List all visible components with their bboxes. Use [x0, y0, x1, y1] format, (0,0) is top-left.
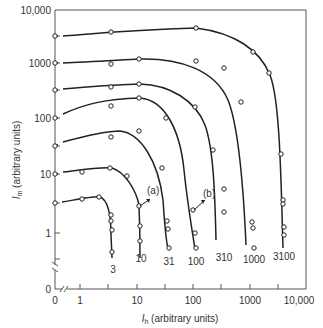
x-tick-label: 1000	[239, 295, 262, 306]
plot-frame	[52, 10, 306, 292]
y-tick-label: 10	[40, 169, 52, 180]
curve-label: 3	[110, 264, 116, 275]
y-tick-labels: 10,000 1000 100 10 1 0	[20, 5, 51, 295]
x-tick-label: 10,000	[284, 295, 315, 306]
curve-label: 10	[135, 253, 147, 264]
x-axis-title: Ih (arbitrary units)	[142, 313, 219, 325]
annotation-a: (a)	[147, 185, 159, 196]
curve-10	[55, 168, 140, 258]
y-tick-label: 1	[45, 228, 51, 239]
curves	[55, 28, 283, 258]
y-tick-label: 100	[34, 113, 51, 124]
curve-label: 1000	[243, 254, 266, 265]
data-points	[53, 26, 286, 254]
x-tick-label: 0	[52, 295, 58, 306]
x-ticks	[80, 284, 278, 289]
x-tick-label: 100	[185, 295, 202, 306]
x-tick-label: 1	[77, 295, 83, 306]
curve-label: 31	[163, 256, 175, 267]
curve-label: 310	[216, 252, 233, 263]
x-tick-labels: 0 1 10 100 1000 10,000	[52, 295, 315, 306]
y-tick-label: 10,000	[20, 5, 51, 16]
curve-100	[55, 98, 195, 249]
chart: 0 1 10 100 1000 10,000 10,000 1000 100 1…	[0, 0, 323, 328]
annotation-b: (b)	[203, 188, 215, 199]
annotations: (a) (b)	[140, 185, 215, 210]
x-tick-label: 10	[131, 295, 143, 306]
curve-label: 100	[188, 256, 205, 267]
curve-labels: 3 10 31 100 310 1000 3100	[110, 251, 295, 275]
y-tick-label: 1000	[29, 58, 52, 69]
y-tick-label: 0	[45, 284, 51, 295]
curve-label: 3100	[273, 251, 296, 262]
y-axis-title: Im (arbitrary units)	[11, 121, 23, 200]
curve-3	[55, 197, 112, 258]
